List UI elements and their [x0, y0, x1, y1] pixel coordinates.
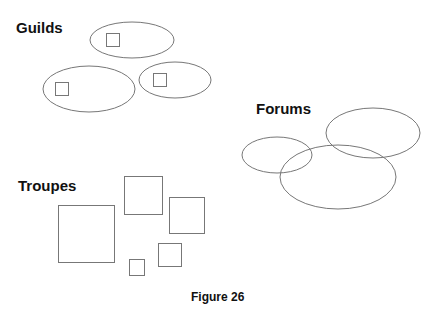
guild-ellipse — [90, 22, 174, 58]
diagram-shapes — [0, 0, 439, 311]
figure-caption: Figure 26 — [191, 290, 244, 304]
forum-ellipse — [242, 137, 312, 173]
troupe-square — [59, 206, 115, 263]
forum-ellipse — [280, 145, 396, 209]
guilds-label: Guilds — [16, 19, 63, 36]
troupe-square — [159, 244, 182, 267]
guild-member-square — [56, 83, 69, 96]
troupe-square — [170, 198, 205, 234]
figure-canvas: Guilds Forums Troupes Figure 26 — [0, 0, 439, 311]
guild-ellipse — [139, 62, 211, 98]
guild-member-square — [154, 74, 167, 87]
forum-ellipse — [326, 108, 420, 158]
forums-label: Forums — [256, 100, 311, 117]
troupe-square — [125, 177, 163, 215]
guild-member-square — [107, 34, 120, 47]
guild-ellipse — [43, 66, 135, 112]
troupe-square — [130, 260, 145, 276]
troupes-label: Troupes — [18, 177, 76, 194]
